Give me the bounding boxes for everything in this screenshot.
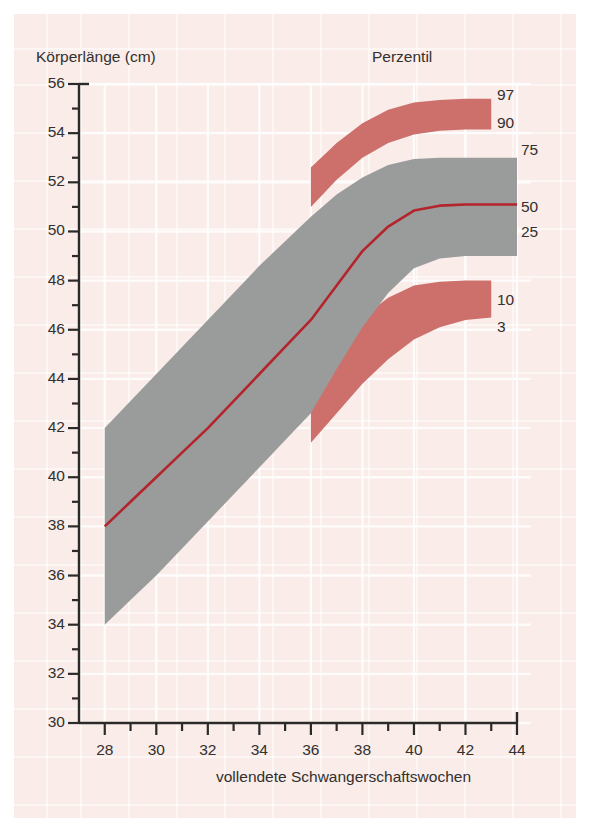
y-tick-label: 32 xyxy=(23,664,65,682)
x-tick-label: 44 xyxy=(504,741,530,759)
y-tick-label: 48 xyxy=(23,271,65,289)
y-tick-label: 38 xyxy=(23,516,65,534)
percentile-label-3: 3 xyxy=(497,318,506,336)
y-tick-label: 54 xyxy=(23,123,65,141)
y-tick-label: 36 xyxy=(23,566,65,584)
percentile-label-25: 25 xyxy=(521,223,538,241)
x-tick-label: 36 xyxy=(298,741,324,759)
x-tick-label: 34 xyxy=(246,741,272,759)
percentile-label-75: 75 xyxy=(521,141,538,159)
y-tick-label: 30 xyxy=(23,713,65,731)
percentile-label-97: 97 xyxy=(497,86,514,104)
y-tick-label: 44 xyxy=(23,369,65,387)
x-tick-label: 38 xyxy=(349,741,375,759)
percentile-label-90: 90 xyxy=(497,114,514,132)
x-tick-label: 42 xyxy=(452,741,478,759)
x-tick-label: 40 xyxy=(401,741,427,759)
y-tick-label: 46 xyxy=(23,320,65,338)
y-tick-label: 50 xyxy=(23,221,65,239)
x-axis-ticks xyxy=(105,723,517,735)
y-tick-label: 42 xyxy=(23,418,65,436)
y-tick-label: 52 xyxy=(23,172,65,190)
percentile-label-50: 50 xyxy=(521,198,538,216)
percentile-label-10: 10 xyxy=(497,291,514,309)
x-tick-label: 28 xyxy=(92,741,118,759)
x-tick-label: 32 xyxy=(195,741,221,759)
chart-page: Körperlänge (cm) Perzentil vollendete Sc… xyxy=(0,0,590,832)
y-tick-label: 56 xyxy=(23,74,65,92)
y-axis-ticks xyxy=(68,84,79,723)
y-tick-label: 40 xyxy=(23,467,65,485)
y-tick-label: 34 xyxy=(23,615,65,633)
x-tick-label: 30 xyxy=(143,741,169,759)
